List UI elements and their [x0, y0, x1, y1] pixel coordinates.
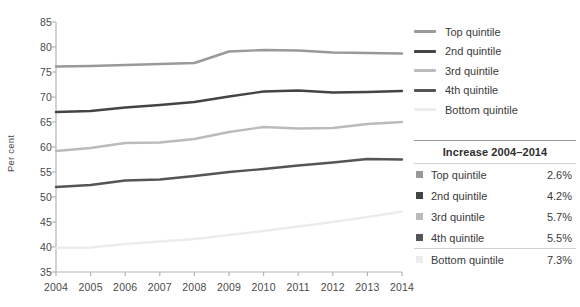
table-row-label: Bottom quintile — [431, 254, 504, 266]
table-swatch-icon — [416, 171, 423, 178]
table-row-label: Top quintile — [431, 169, 487, 181]
table-row-value: 4.2% — [547, 190, 576, 202]
table-row-value: 7.3% — [547, 254, 576, 266]
x-tick-2011: 2011 — [286, 281, 309, 293]
legend-swatch-icon — [414, 108, 436, 111]
chart-figure: Per cent 3540455055606570758085 20042005… — [0, 0, 580, 307]
table-row: 4th quintile5.5% — [414, 227, 576, 248]
table-swatch-icon — [416, 192, 423, 199]
legend-swatch-icon — [414, 89, 436, 92]
legend-item-label: 4th quintile — [445, 84, 498, 96]
x-tick-2005: 2005 — [79, 281, 103, 293]
legend-swatch-icon — [414, 50, 436, 53]
legend-item-label: Bottom quintile — [445, 104, 518, 116]
x-tick-2010: 2010 — [252, 281, 276, 293]
x-axis-tick-labels: 2004200520062007200820092010201120122013… — [0, 0, 410, 307]
legend-item-3rd-quintile: 3rd quintile — [414, 61, 578, 81]
legend-swatch-icon — [414, 30, 436, 33]
legend-item-top-quintile: Top quintile — [414, 22, 578, 42]
x-tick-2009: 2009 — [217, 281, 241, 293]
table-row-label: 2nd quintile — [431, 190, 487, 202]
x-tick-2008: 2008 — [182, 281, 206, 293]
increase-table: Increase 2004–2014 Top quintile2.6%2nd q… — [414, 140, 576, 270]
table-row-value: 5.7% — [547, 211, 576, 223]
table-row-label: 4th quintile — [431, 232, 484, 244]
chart-legend: Top quintile2nd quintile3rd quintile4th … — [414, 22, 578, 120]
table-row-value: 5.5% — [547, 232, 576, 244]
legend-item-4th-quintile: 4th quintile — [414, 81, 578, 101]
legend-item-label: 3rd quintile — [445, 65, 499, 77]
table-row: 2nd quintile4.2% — [414, 185, 576, 206]
table-swatch-icon — [416, 213, 423, 220]
x-tick-2006: 2006 — [113, 281, 137, 293]
legend-swatch-icon — [414, 69, 436, 72]
table-row: Bottom quintile7.3% — [414, 248, 576, 270]
table-row: Top quintile2.6% — [414, 164, 576, 185]
legend-item-label: 2nd quintile — [445, 45, 501, 57]
x-tick-2013: 2013 — [355, 281, 379, 293]
increase-table-body: Top quintile2.6%2nd quintile4.2%3rd quin… — [414, 164, 576, 270]
legend-item-label: Top quintile — [445, 26, 501, 38]
table-row-label: 3rd quintile — [431, 211, 485, 223]
legend-item-bottom-quintile: Bottom quintile — [414, 100, 578, 120]
increase-table-header: Increase 2004–2014 — [414, 140, 576, 164]
table-row: 3rd quintile5.7% — [414, 206, 576, 227]
legend-item-2nd-quintile: 2nd quintile — [414, 42, 578, 62]
table-row-value: 2.6% — [547, 169, 576, 181]
x-tick-2014: 2014 — [390, 281, 414, 293]
x-tick-2004: 2004 — [44, 281, 68, 293]
x-tick-2012: 2012 — [321, 281, 345, 293]
table-swatch-icon — [416, 234, 423, 241]
plot-area: Per cent 3540455055606570758085 20042005… — [0, 0, 410, 307]
x-tick-2007: 2007 — [148, 281, 172, 293]
table-swatch-icon — [416, 256, 423, 263]
